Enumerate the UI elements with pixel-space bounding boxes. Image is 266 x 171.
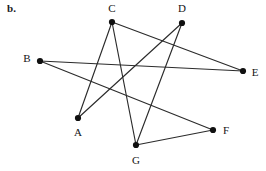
graph-edges-group (40, 22, 243, 145)
graph-figure: b. ABCDEFG (0, 0, 266, 171)
graph-edge (112, 22, 243, 71)
graph-vertex-label-c: C (108, 2, 115, 14)
graph-edge (40, 61, 243, 71)
graph-edge (78, 23, 182, 118)
graph-vertex-c (109, 19, 115, 25)
graph-vertex-a (75, 115, 81, 121)
graph-vertex-label-d: D (178, 2, 186, 14)
graph-vertex-e (240, 68, 246, 74)
graph-vertex-label-b: B (23, 52, 30, 64)
graph-vertex-label-g: G (132, 154, 140, 166)
graph-vertices-group: ABCDEFG (23, 2, 258, 166)
graph-vertex-label-e: E (252, 66, 259, 78)
graph-vertex-g (133, 142, 139, 148)
graph-edge (136, 130, 213, 145)
graph-vertex-f (210, 127, 216, 133)
graph-vertex-label-f: F (223, 124, 229, 136)
graph-edge (78, 22, 112, 118)
graph-canvas: ABCDEFG (0, 0, 266, 171)
graph-vertex-b (37, 58, 43, 64)
graph-vertex-d (179, 20, 185, 26)
graph-edge (136, 23, 182, 145)
graph-vertex-label-a: A (74, 126, 82, 138)
